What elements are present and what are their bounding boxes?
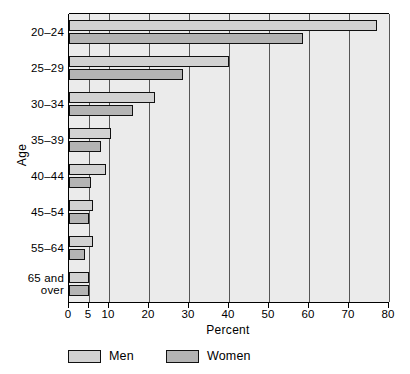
bar-women-6: [69, 249, 85, 261]
x-tick-label-80: 80: [373, 308, 403, 320]
legend-item-men: Men: [68, 349, 134, 363]
y-tick-label-4: 40–44: [16, 170, 64, 183]
bar-men-7: [69, 272, 89, 284]
gridline-80: [389, 14, 390, 302]
bar-women-1: [69, 69, 183, 81]
bar-women-0: [69, 33, 303, 45]
x-tick-label-20: 20: [133, 308, 163, 320]
bar-men-2: [69, 92, 155, 104]
x-tick-label-30: 30: [173, 308, 203, 320]
y-tick-label-5: 45–54: [16, 206, 64, 219]
bar-men-4: [69, 164, 106, 176]
bar-men-0: [69, 20, 377, 32]
y-tick-label-6: 55–64: [16, 242, 64, 255]
bar-men-3: [69, 128, 111, 140]
bar-women-5: [69, 213, 89, 225]
chart-legend: MenWomen: [68, 345, 388, 367]
y-tick-label-7: 65 and over: [16, 272, 64, 297]
y-tick-label-0: 20–24: [16, 26, 64, 39]
bar-men-5: [69, 200, 93, 212]
x-axis-title: Percent: [68, 323, 388, 337]
legend-item-women: Women: [166, 349, 251, 363]
x-tick-label-60: 60: [293, 308, 323, 320]
bar-women-2: [69, 105, 133, 117]
bar-women-4: [69, 177, 91, 189]
legend-label-men: Men: [109, 349, 134, 363]
y-tick-label-3: 35–39: [16, 134, 64, 147]
x-tick-label-50: 50: [253, 308, 283, 320]
plot-area: [68, 14, 389, 303]
legend-swatch-women: [166, 350, 199, 363]
legend-label-women: Women: [207, 349, 251, 363]
y-tick-label-1: 25–29: [16, 62, 64, 75]
bar-men-1: [69, 56, 229, 68]
x-tick-label-70: 70: [333, 308, 363, 320]
bar-women-7: [69, 285, 89, 297]
bar-women-3: [69, 141, 101, 153]
legend-swatch-men: [68, 350, 101, 363]
plot-top-border: [69, 13, 389, 15]
x-axis-tick-labels: 051020304050607080: [0, 308, 410, 324]
bars-layer: [69, 14, 389, 302]
bar-men-6: [69, 236, 93, 248]
y-tick-label-2: 30–34: [16, 98, 64, 111]
x-tick-label-10: 10: [93, 308, 123, 320]
x-tick-label-40: 40: [213, 308, 243, 320]
bar-chart-figure: Age 20–2425–2930–3435–3940–4445–5455–646…: [0, 0, 410, 374]
